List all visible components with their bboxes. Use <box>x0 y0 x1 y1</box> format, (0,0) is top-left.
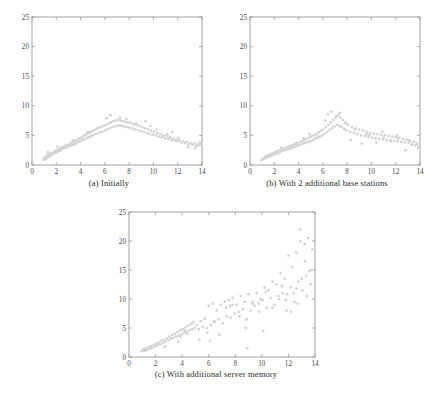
y-tick-label: 0 <box>25 162 29 170</box>
data-point <box>285 309 288 312</box>
data-point <box>335 115 338 118</box>
data-point <box>111 126 114 129</box>
data-point <box>295 251 298 254</box>
data-point <box>171 131 174 134</box>
data-point <box>402 138 405 141</box>
data-point <box>223 301 226 304</box>
data-point <box>351 126 354 129</box>
data-point <box>275 283 278 286</box>
panel-b-svg: 024681012140510152025 <box>218 6 436 178</box>
data-point <box>331 127 334 130</box>
x-tick-label: 0 <box>30 168 34 176</box>
data-point <box>287 254 290 257</box>
data-point <box>262 330 265 333</box>
data-point <box>360 142 363 145</box>
data-point <box>293 301 296 304</box>
data-point <box>105 117 108 120</box>
data-point <box>164 137 167 140</box>
data-point <box>405 138 408 141</box>
data-point <box>301 142 304 145</box>
panel-c-svg: 024681012140510152025 <box>96 201 336 369</box>
data-point <box>112 120 115 123</box>
data-point <box>381 131 384 134</box>
data-point <box>203 317 206 320</box>
data-point <box>215 309 218 312</box>
data-point <box>396 140 399 143</box>
data-point <box>243 301 246 304</box>
data-point <box>199 320 202 323</box>
y-tick-label: 20 <box>119 238 127 246</box>
data-point <box>266 156 269 159</box>
x-tick-label: 12 <box>392 168 400 176</box>
data-point <box>263 286 266 289</box>
data-point <box>190 323 193 326</box>
data-point <box>263 158 266 161</box>
data-point <box>201 325 204 328</box>
x-tick-label: 14 <box>311 360 319 368</box>
data-point <box>119 119 122 122</box>
data-point <box>257 302 260 305</box>
data-point <box>258 310 261 313</box>
data-point <box>295 142 298 145</box>
data-point <box>307 237 310 240</box>
data-point <box>391 135 394 138</box>
scatter-series <box>140 228 313 352</box>
data-point <box>113 125 116 128</box>
x-tick-label: 8 <box>345 168 349 176</box>
data-point <box>96 127 99 130</box>
data-point <box>129 122 132 125</box>
data-point <box>315 133 318 136</box>
data-point <box>118 124 121 127</box>
data-point <box>329 121 332 124</box>
data-point <box>56 145 59 148</box>
data-point <box>314 138 317 141</box>
data-point <box>238 315 241 318</box>
data-point <box>265 306 268 309</box>
data-point <box>270 155 273 158</box>
data-point <box>345 122 348 125</box>
data-point <box>128 126 131 129</box>
data-point <box>278 298 281 301</box>
data-point <box>157 135 160 138</box>
data-point <box>273 303 276 306</box>
data-point <box>300 140 303 143</box>
data-point <box>239 295 242 298</box>
data-point <box>233 312 236 315</box>
data-point <box>235 303 238 306</box>
y-tick-label: 5 <box>122 325 126 333</box>
data-point <box>192 321 195 324</box>
data-point <box>283 277 286 280</box>
data-point <box>200 142 203 145</box>
data-point <box>211 302 214 305</box>
plot-frame <box>129 212 315 357</box>
data-point <box>349 139 352 142</box>
data-point <box>305 274 308 277</box>
data-point <box>400 141 403 144</box>
data-point <box>198 338 201 341</box>
data-point <box>271 306 274 309</box>
data-point <box>264 291 267 294</box>
data-point <box>375 141 378 144</box>
data-point <box>164 341 167 344</box>
data-point <box>122 120 125 123</box>
data-point <box>309 283 312 286</box>
data-point <box>308 133 311 136</box>
data-point <box>325 126 328 129</box>
data-point <box>295 287 298 290</box>
data-point <box>187 146 190 149</box>
data-point <box>297 280 300 283</box>
data-point <box>193 142 196 145</box>
data-point <box>124 120 127 123</box>
data-point <box>292 146 295 149</box>
data-point <box>147 128 150 131</box>
scatter-series <box>260 110 420 161</box>
data-point <box>280 285 283 288</box>
data-point <box>281 292 284 295</box>
data-point <box>116 125 119 128</box>
data-point <box>317 135 320 138</box>
data-point <box>308 136 311 139</box>
data-point <box>387 135 390 138</box>
panel-c-caption: (c) With additional server memory <box>96 369 336 379</box>
data-point <box>117 119 120 122</box>
data-point <box>229 316 232 319</box>
